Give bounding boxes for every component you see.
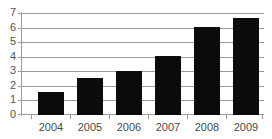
y-axis-labels: 7 6 5 4 3 2 1 0	[0, 0, 20, 139]
bar-2005	[77, 78, 103, 115]
y-axis-tick-label: 0	[0, 109, 16, 120]
x-axis-tick-mark	[70, 115, 71, 119]
x-axis-tick-label-2007: 2007	[148, 121, 188, 134]
x-axis-tick-mark	[109, 115, 110, 119]
bar-2008	[194, 27, 220, 115]
bar-2004	[38, 92, 64, 115]
y-axis-tick-label: 7	[0, 7, 16, 18]
bar-2007	[155, 56, 181, 115]
y-axis-tick-label: 2	[0, 80, 16, 91]
x-axis-tick-label-2009: 2009	[226, 121, 266, 134]
bar-2006	[116, 71, 142, 115]
bar-2009	[233, 18, 259, 115]
y-axis-tick-label: 5	[0, 36, 16, 47]
x-axis-tick-label-2008: 2008	[187, 121, 227, 134]
y-axis-tick-label: 1	[0, 94, 16, 105]
y-axis-tick-label: 3	[0, 65, 16, 76]
x-axis-labels: 2004 2005 2006 2007 2008 2009	[22, 121, 264, 137]
y-axis-tick-label: 4	[0, 51, 16, 62]
bar-chart: 7 6 5 4 3 2 1 0	[0, 0, 272, 139]
x-axis-tick-mark	[226, 115, 227, 119]
x-axis-tick-label-2006: 2006	[109, 121, 149, 134]
y-axis-tick-label: 6	[0, 22, 16, 33]
x-axis-tick-mark	[31, 115, 32, 119]
x-axis-tick-mark	[187, 115, 188, 119]
bar-series	[22, 13, 264, 115]
x-axis-tick-mark	[148, 115, 149, 119]
x-axis-tick-label-2004: 2004	[31, 121, 71, 134]
x-axis-ticks	[22, 115, 264, 120]
x-axis-tick-label-2005: 2005	[70, 121, 110, 134]
x-axis-tick-mark	[262, 115, 263, 119]
